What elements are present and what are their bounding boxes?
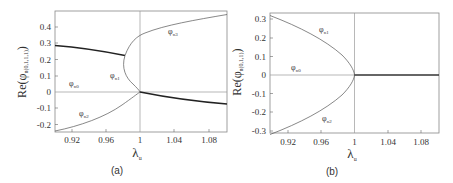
x-axis-label-a: λu xyxy=(132,145,141,161)
y-tick-label: 0.3 xyxy=(40,38,52,48)
y-tick-label: 0.2 xyxy=(255,33,266,43)
y-tick-label: 0.2 xyxy=(40,55,51,65)
x-tick-label: 1 xyxy=(138,135,143,145)
panel-a: 0.4 0.3 0.2 0.1 0 -0.1 -0.2 0.92 0.96 1 … xyxy=(15,11,227,176)
y-tick-label: 0.3 xyxy=(255,14,267,24)
y-ticks-a xyxy=(55,27,58,125)
y-tick-label: -0.2 xyxy=(252,107,266,117)
curve-phi-n2-a xyxy=(55,92,140,131)
figure: 0.4 0.3 0.2 0.1 0 -0.1 -0.2 0.92 0.96 1 … xyxy=(0,0,453,183)
y-tick-label: 0.4 xyxy=(40,22,52,32)
y-tick-label: 0.1 xyxy=(255,52,266,62)
label-phi-n1-a: φn1 xyxy=(110,71,120,81)
x-tick-label: 1.04 xyxy=(166,135,182,145)
y-tick-label: 0.1 xyxy=(40,71,51,81)
x-tick-label: 0.92 xyxy=(280,137,296,147)
x-tick-label: 0.96 xyxy=(98,135,114,145)
y-tick-label: 0 xyxy=(262,70,267,80)
x-ticks-a xyxy=(72,129,209,132)
curve-phi-n2-b xyxy=(270,75,355,135)
curve-phi-n1-b xyxy=(270,16,355,76)
curve-phi-n1-a xyxy=(124,56,140,93)
panel-b: 0.3 0.2 0.1 0 -0.1 -0.2 -0.3 0.92 0.96 1… xyxy=(230,13,439,177)
label-phi-n0-a: φn0 xyxy=(69,79,79,89)
label-phi-n3-a: φn3 xyxy=(168,27,178,37)
lower-right-thick-branch-a xyxy=(140,92,227,104)
y-axis-label-a: Re(φn(0,1,1,1)) xyxy=(15,46,30,98)
y-tick-label: -0.1 xyxy=(37,103,51,113)
y-tick-label: -0.1 xyxy=(252,89,266,99)
y-axis-label-b: Re(φn(0,1,1)) xyxy=(230,48,245,95)
x-tick-label: 1.08 xyxy=(201,135,217,145)
caption-a: (a) xyxy=(111,165,123,176)
label-phi-n2-a: φn2 xyxy=(79,109,89,119)
x-tick-label: 0.96 xyxy=(313,137,329,147)
label-phi-n0-b: φn0 xyxy=(291,63,301,73)
y-tick-label: -0.2 xyxy=(37,120,51,130)
x-tick-label: 1.04 xyxy=(380,137,396,147)
upper-left-thick-branch-a xyxy=(55,46,125,56)
y-tick-label: 0 xyxy=(47,87,52,97)
caption-b: (b) xyxy=(326,166,338,177)
x-tick-label: 0.92 xyxy=(64,135,80,145)
x-tick-label: 1.08 xyxy=(413,137,429,147)
y-tick-label: -0.3 xyxy=(252,126,267,136)
x-axis-label-b: λu xyxy=(347,146,356,162)
label-phi-n2-b: φn2 xyxy=(322,114,332,124)
label-phi-n1-b: φn1 xyxy=(319,25,329,35)
